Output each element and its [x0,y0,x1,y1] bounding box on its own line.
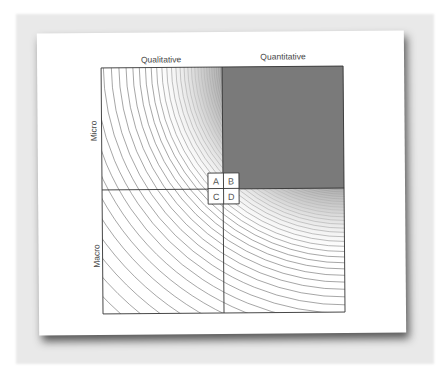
diagram-card: Qualitative Quantitative Micro Macro A B… [37,31,406,336]
row-label-micro: Micro [89,120,99,141]
key-cell-b: B [228,176,234,186]
key-cell-c: C [213,192,220,202]
quadrant-diagram: Qualitative Quantitative Micro Macro A B… [37,31,406,336]
highlighted-quadrant-quantitative-micro [222,66,344,189]
quadrant-key: A B C D [208,173,239,204]
column-label-qualitative: Qualitative [141,54,182,64]
key-cell-d: D [228,192,235,202]
key-cell-a: A [213,177,219,187]
row-label-macro: Macro [91,244,101,268]
column-label-quantitative: Quantitative [260,51,306,61]
